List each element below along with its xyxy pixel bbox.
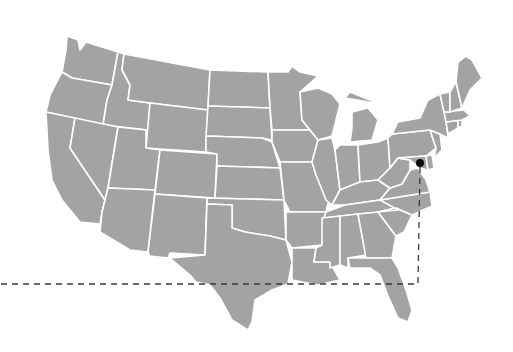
state-montana bbox=[122, 54, 210, 110]
state-north-dakota bbox=[208, 70, 270, 108]
state-maine bbox=[456, 56, 482, 108]
states-layer bbox=[46, 36, 482, 330]
state-wyoming bbox=[146, 103, 208, 152]
state-arkansas bbox=[286, 212, 326, 248]
state-kansas bbox=[215, 166, 284, 200]
location-marker-dot bbox=[416, 159, 424, 167]
state-arizona bbox=[100, 188, 155, 252]
us-map-svg bbox=[0, 0, 513, 352]
state-iowa bbox=[272, 130, 318, 162]
state-colorado bbox=[155, 150, 217, 198]
state-delaware bbox=[426, 155, 434, 170]
state-south-dakota bbox=[206, 106, 272, 140]
state-new-york bbox=[392, 94, 448, 138]
us-map bbox=[0, 0, 513, 352]
state-new-mexico bbox=[148, 194, 207, 258]
state-nebraska bbox=[206, 136, 280, 168]
state-florida bbox=[348, 258, 412, 322]
state-michigan bbox=[340, 92, 380, 142]
